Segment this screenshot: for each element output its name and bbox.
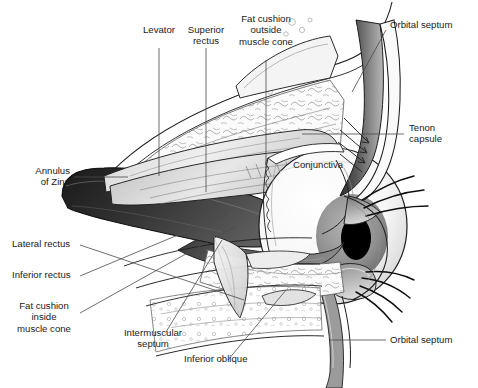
label-fat-cushion-inside-muscle-cone: Fat cushion inside muscle cone (8, 300, 80, 334)
label-inferior-rectus: Inferior rectus (12, 269, 92, 280)
label-orbital-septum-bottom: Orbital septum (390, 334, 478, 345)
label-inferior-oblique: Inferior oblique (184, 353, 276, 364)
label-intermuscular-septum: Intermuscular septum (110, 327, 196, 350)
label-fat-cushion-outside-muscle-cone: Fat cushion outside muscle cone (224, 13, 308, 47)
label-annulus-of-zinn: Annulus of Zinn (6, 165, 70, 188)
label-tenon-capsule: Tenon capsule (409, 122, 465, 145)
label-conjunctiva: Conjunctiva (293, 159, 363, 170)
eye-orbit-anatomy-figure: Levator Superior rectus Fat cushion outs… (0, 0, 478, 388)
label-orbital-septum-top: Orbital septum (390, 19, 476, 30)
label-lateral-rectus: Lateral rectus (12, 238, 92, 249)
